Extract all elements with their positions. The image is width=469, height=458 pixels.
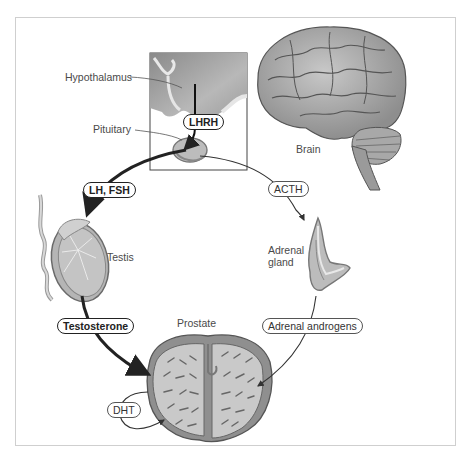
adrenal-gland-illustration <box>309 218 350 290</box>
hormone-testosterone: Testosterone <box>57 318 134 334</box>
label-hypothalamus: Hypothalamus <box>65 71 132 83</box>
label-pituitary: Pituitary <box>93 123 131 135</box>
diagram-artwork <box>0 0 469 458</box>
hormone-acth: ACTH <box>268 181 309 197</box>
prostate-illustration <box>147 335 272 442</box>
brain-illustration <box>258 27 406 190</box>
label-testis: Testis <box>107 251 134 263</box>
hormone-dht: DHT <box>107 402 141 418</box>
label-adrenal-line2: gland <box>268 256 294 268</box>
hormone-lhrh: LHRH <box>183 114 224 130</box>
arrow-testosterone <box>82 296 146 373</box>
label-adrenal-line1: Adrenal <box>268 244 304 256</box>
label-brain: Brain <box>296 143 321 155</box>
hormone-adrenal-androgens: Adrenal androgens <box>262 318 363 334</box>
testis-illustration <box>40 195 116 307</box>
hypothalamus-inset <box>150 53 247 170</box>
hormone-lh-fsh: LH, FSH <box>83 182 136 198</box>
label-prostate: Prostate <box>177 317 216 329</box>
